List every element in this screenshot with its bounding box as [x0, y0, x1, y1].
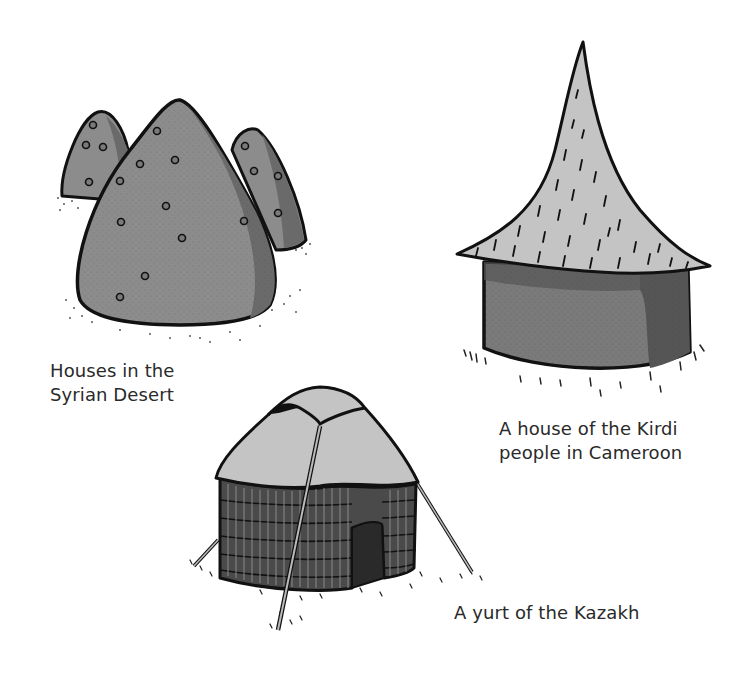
kirdi-house-drawing — [457, 42, 710, 396]
caption-kazakh-yurt: A yurt of the Kazakh — [454, 601, 639, 625]
kazakh-yurt-drawing — [190, 387, 482, 630]
caption-kirdi-house: A house of the Kirdi people in Cameroon — [499, 417, 682, 465]
syrian-desert-houses-drawing — [57, 100, 311, 343]
caption-syrian-desert: Houses in the Syrian Desert — [50, 359, 174, 407]
caption-line: people in Cameroon — [499, 441, 682, 465]
caption-line: Houses in the — [50, 359, 174, 383]
illustration-canvas — [0, 0, 754, 675]
caption-line: A yurt of the Kazakh — [454, 601, 639, 625]
caption-line: Syrian Desert — [50, 383, 174, 407]
caption-line: A house of the Kirdi — [499, 417, 682, 441]
